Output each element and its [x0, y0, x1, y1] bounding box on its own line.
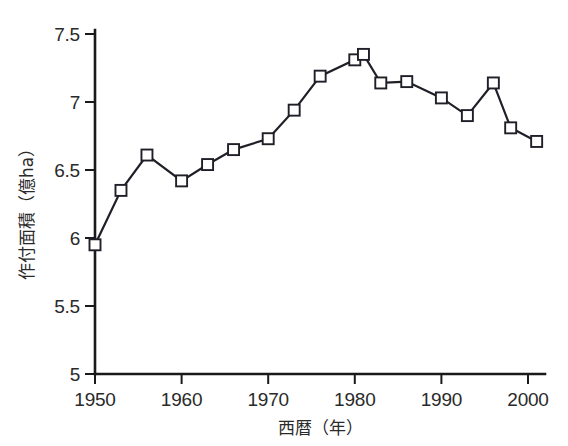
x-tick-labels: 195019601970198019902000: [74, 389, 548, 410]
data-point-marker: [289, 105, 300, 116]
chart-container: 55.566.577.5 195019601970198019902000 西暦…: [0, 0, 568, 446]
data-point-marker: [315, 71, 326, 82]
data-point-marker: [141, 150, 152, 161]
data-point-marker: [228, 144, 239, 155]
data-point-marker: [401, 76, 412, 87]
x-tick-label: 1970: [247, 389, 288, 410]
x-tick-label: 1950: [74, 389, 115, 410]
data-point-marker: [202, 159, 213, 170]
y-tick-label: 7.5: [54, 24, 80, 45]
y-tick-label: 5.5: [54, 296, 80, 317]
data-point-marker: [90, 239, 101, 250]
data-point-marker: [115, 185, 126, 196]
x-tick-label: 2000: [507, 389, 548, 410]
data-point-marker: [436, 92, 447, 103]
x-tick-label: 1990: [421, 389, 462, 410]
data-point-marker: [462, 110, 473, 121]
data-point-marker: [176, 175, 187, 186]
y-axis-title: 作付面積（億ha）: [17, 140, 37, 280]
x-axis-ticks: [95, 374, 528, 384]
y-tick-label: 6.5: [54, 160, 80, 181]
x-tick-label: 1960: [161, 389, 202, 410]
series-line-cropped-area: [95, 54, 537, 244]
x-axis-title: 西暦（年）: [278, 418, 363, 438]
x-tick-label: 1980: [334, 389, 375, 410]
y-tick-labels: 55.566.577.5: [54, 24, 80, 385]
data-point-marker: [488, 77, 499, 88]
line-chart: 55.566.577.5 195019601970198019902000 西暦…: [0, 0, 568, 446]
data-point-marker: [505, 122, 516, 133]
data-point-marker: [263, 133, 274, 144]
data-point-marker: [358, 49, 369, 60]
data-point-marker: [531, 136, 542, 147]
y-tick-label: 5: [70, 364, 80, 385]
data-point-marker: [375, 77, 386, 88]
series-markers: [90, 49, 543, 250]
y-axis-ticks: [85, 34, 95, 374]
y-tick-label: 6: [70, 228, 80, 249]
y-tick-label: 7: [70, 92, 80, 113]
